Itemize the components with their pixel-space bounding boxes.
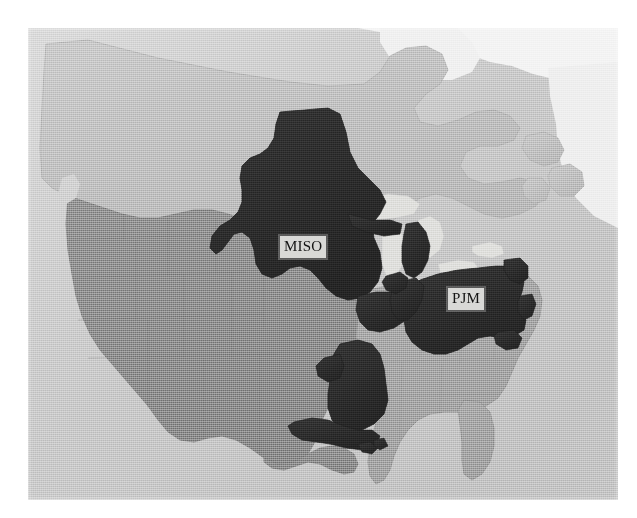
map-image-plate [28,28,618,500]
map-label-miso-text: MISO [284,238,322,254]
miso-south-region [328,340,388,432]
map-label-pjm: PJM [447,287,485,311]
map-label-pjm-text: PJM [452,290,480,306]
rto-map-figure: MISO PJM [0,0,637,518]
north-america-map [28,28,618,500]
map-label-miso: MISO [279,235,327,259]
